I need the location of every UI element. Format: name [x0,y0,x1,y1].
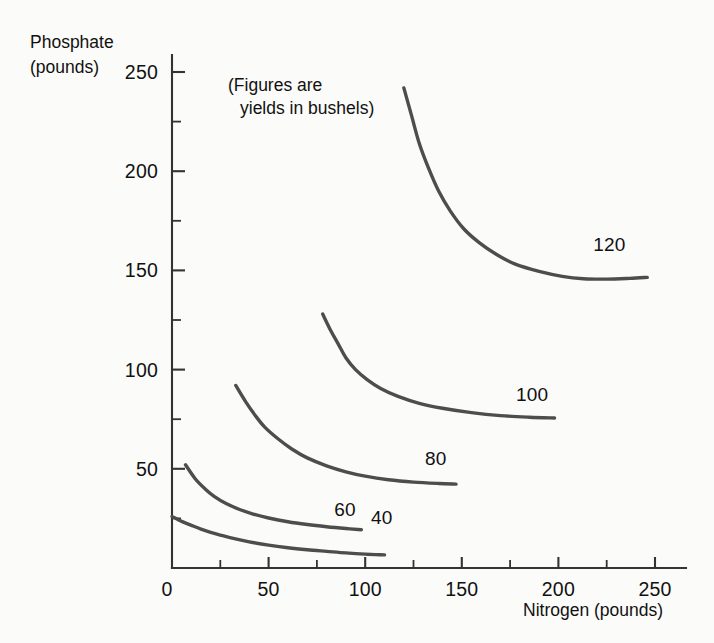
curve-label-40: 40 [371,507,393,528]
isoquant-curves [172,88,647,555]
y-axis-title-line1: Phosphate [30,32,114,52]
y-axis-title-line2: (pounds) [30,57,99,77]
annotation-line2: yields in bushels) [240,98,374,118]
x-axis-title: Nitrogen (pounds) [523,600,663,620]
axes [172,55,686,568]
origin-tick-label: 0 [161,578,172,600]
curve-label-80: 80 [425,448,447,469]
x-tick-label: 50 [258,578,280,600]
x-tick-label: 200 [542,578,575,600]
y-tick-label: 250 [125,61,158,83]
x-tick-label: 150 [445,578,478,600]
annotation-line1: (Figures are [228,75,322,95]
isoquant-curve-40 [172,516,385,554]
x-tick-label: 100 [349,578,382,600]
y-tick-label: 50 [136,458,158,480]
x-tick-label: 250 [638,578,671,600]
curve-label-120: 120 [593,234,625,255]
isoquant-chart: 50100150200250050100150200250 4060801001… [0,0,714,643]
isoquant-curve-80 [236,385,456,484]
axis-ticks [172,72,655,568]
curve-label-100: 100 [516,384,548,405]
chart-figure: 50100150200250050100150200250 4060801001… [0,0,714,643]
curve-label-60: 60 [334,499,356,520]
y-tick-label: 200 [125,160,158,182]
y-tick-label: 100 [125,359,158,381]
y-tick-label: 150 [125,259,158,281]
axis-tick-labels: 50100150200250050100150200250 [125,61,672,600]
